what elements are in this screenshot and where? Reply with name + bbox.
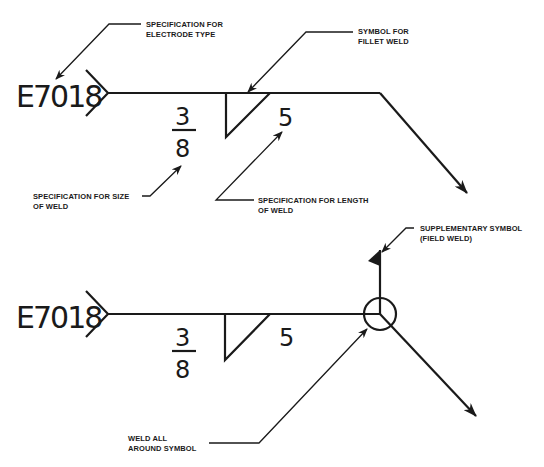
size-spec-label-line1: SPECIFICATION FOR SIZE [33,192,129,201]
arrow-line-2 [380,314,476,416]
electrode-leader-arrow [56,24,141,79]
size-denominator-2: 8 [175,356,190,384]
top-weld-symbol: SPECIFICATION FOR ELECTRODE TYPE E7018 S… [16,20,467,215]
size-numerator-2: 3 [175,324,190,352]
size-leader-arrow [142,166,181,196]
bottom-weld-symbol: E7018 3 8 5 SUPPLEMENTARY SYMBOL (FIELD … [16,224,523,453]
electrode-spec-callout: SPECIFICATION FOR ELECTRODE TYPE [56,20,223,79]
weld-all-around-callout: WELD ALL AROUND SYMBOL [128,329,367,453]
fillet-symbol-callout: SYMBOL FOR FILLET WELD [248,27,409,92]
weld-all-around-label-line1: WELD ALL [128,434,168,443]
field-weld-flag-icon [368,250,380,266]
electrode-type-text-2: E7018 [16,300,102,335]
fillet-label-line1: SYMBOL FOR [358,27,409,36]
electrode-spec-label-line1: SPECIFICATION FOR [146,20,223,29]
supplementary-leader-arrow [382,228,414,252]
length-spec-callout: SPECIFICATION FOR LENGTH OF WELD [216,132,369,215]
supplementary-label-line1: SUPPLEMENTARY SYMBOL [420,224,523,233]
electrode-type-text: E7018 [16,79,102,114]
size-spec-label-line2: OF WELD [33,202,69,211]
fillet-weld-symbol-icon [226,93,270,137]
arrow-line [380,93,467,193]
size-spec-callout: SPECIFICATION FOR SIZE OF WELD [33,166,181,211]
electrode-spec-label-line2: ELECTRODE TYPE [146,30,215,39]
fillet-leader-arrow [248,32,353,92]
supplementary-symbol-callout: SUPPLEMENTARY SYMBOL (FIELD WELD) [382,224,523,252]
welding-symbol-diagram: SPECIFICATION FOR ELECTRODE TYPE E7018 S… [0,0,544,467]
size-denominator: 8 [175,135,190,163]
length-spec-label-line2: OF WELD [258,206,294,215]
length-spec-label-line1: SPECIFICATION FOR LENGTH [258,196,369,205]
supplementary-label-line2: (FIELD WELD) [420,234,472,243]
fillet-label-line2: FILLET WELD [358,37,409,46]
fillet-weld-symbol-icon-2 [225,314,270,360]
length-leader-arrow [216,132,282,200]
length-value-2: 5 [279,324,294,352]
length-value: 5 [278,104,293,132]
size-numerator: 3 [175,103,190,131]
weld-all-around-label-line2: AROUND SYMBOL [128,444,197,453]
